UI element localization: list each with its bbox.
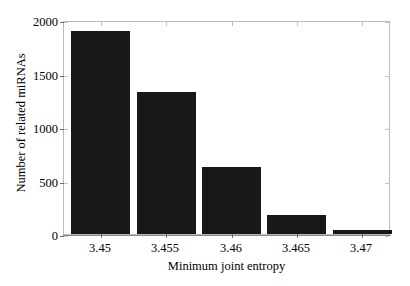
x-tick-top: [101, 22, 102, 26]
x-tick-label: 3.47: [350, 242, 372, 255]
x-tick-label: 3.465: [282, 242, 310, 255]
y-tick-label: 500: [39, 176, 58, 189]
y-tick-right: [385, 76, 389, 77]
chart-figure: Number of related miRNAs 050010001500200…: [0, 0, 410, 286]
x-tick-bottom: [297, 234, 298, 238]
y-tick-right: [385, 183, 389, 184]
x-tick-top: [297, 22, 298, 26]
x-tick-label: 3.46: [220, 242, 242, 255]
bar: [202, 167, 261, 234]
y-tick-inner: [64, 22, 68, 23]
x-tick-bottom: [232, 234, 233, 238]
y-tick-label: 2000: [33, 16, 58, 29]
y-tick-inner: [64, 183, 68, 184]
x-tick-top: [232, 22, 233, 26]
x-tick-label: 3.455: [151, 242, 179, 255]
x-axis-title: Minimum joint entropy: [63, 260, 390, 273]
x-axis-spine: [63, 235, 391, 236]
y-tick-inner: [64, 76, 68, 77]
y-tick-inner: [64, 236, 68, 237]
y-tick-inner: [64, 129, 68, 130]
y-tick-label: 1000: [33, 123, 58, 136]
y-tick-right: [385, 236, 389, 237]
y-tick-right: [385, 22, 389, 23]
y-tick-right: [385, 129, 389, 130]
x-tick-top: [362, 22, 363, 26]
x-tick-bottom: [166, 234, 167, 238]
bar: [267, 215, 326, 234]
y-tick-label: 1500: [33, 69, 58, 82]
x-tick-top: [166, 22, 167, 26]
bar: [71, 31, 130, 234]
x-tick-label: 3.45: [89, 242, 111, 255]
x-tick-bottom: [101, 234, 102, 238]
y-tick-label: 0: [52, 230, 58, 243]
y-axis-title: Number of related miRNAs: [12, 3, 30, 243]
x-tick-bottom: [362, 234, 363, 238]
bar: [137, 92, 196, 234]
plot-area: 0500100015002000: [63, 21, 390, 235]
